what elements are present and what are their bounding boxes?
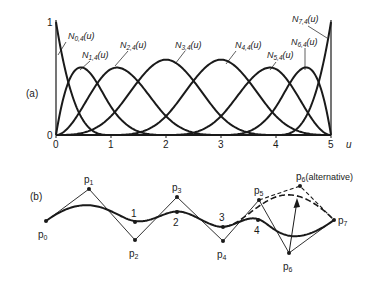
control-point-label-p4: p4	[217, 249, 227, 261]
basis-curve-N2	[56, 68, 331, 135]
control-point-label-p2: p2	[129, 248, 139, 260]
control-point-p5	[257, 198, 261, 202]
control-point-label-p5: p5	[254, 185, 264, 197]
basis-curve-N4	[56, 60, 331, 135]
control-point-p0	[44, 219, 48, 223]
knot-label-2: 2	[173, 217, 179, 228]
control-point-label-p0: p0	[38, 229, 48, 241]
panel-b-label: (b)	[30, 191, 42, 202]
bspline-figure: (a) 012345 0 1 u N0,4(u)N1,4(u)N2,4(u)N3…	[0, 0, 374, 288]
arrow-head-icon	[294, 198, 301, 208]
panel-a-label: (a)	[26, 88, 38, 99]
basis-label-7: N7,4(u)	[292, 14, 319, 25]
alternative-polygon	[225, 186, 334, 253]
knot-label-1: 1	[131, 208, 137, 219]
control-point-p7	[332, 218, 336, 222]
control-point-p4	[221, 239, 225, 243]
x-tick-label: 1	[108, 139, 114, 150]
control-point-label-p6: p6	[283, 261, 293, 273]
control-point-label-p1: p1	[84, 174, 94, 186]
basis-label-1: N1,4(u)	[82, 50, 109, 61]
control-point-label-p7: p7	[338, 215, 348, 227]
basis-curve-N5	[56, 68, 331, 135]
basis-curve-N3	[56, 60, 331, 135]
basis-label-6: N6,4(u)	[291, 37, 318, 48]
control-point-label-p6-alternative: p6(alternative)	[296, 171, 353, 183]
x-axis-label: u	[346, 139, 352, 150]
x-ticks: 012345	[53, 135, 334, 150]
basis-label-0: N0,4(u)	[68, 31, 95, 42]
y-tick-0: 0	[47, 130, 53, 141]
control-point-p6	[287, 251, 291, 255]
x-tick-label: 5	[328, 139, 334, 150]
basis-curve-N0	[56, 22, 331, 135]
leader-line	[175, 51, 185, 64]
basis-curve-N6	[56, 67, 331, 135]
leader-line	[115, 51, 128, 66]
basis-curve-N7	[56, 22, 331, 135]
basis-function-plot: (a) 012345 0 1 u N0,4(u)N1,4(u)N2,4(u)N3…	[26, 14, 352, 150]
control-point-p1	[87, 187, 91, 191]
basis-label-2: N2,4(u)	[120, 40, 147, 51]
knot-label-4: 4	[254, 225, 260, 236]
knot-label-3: 3	[219, 212, 225, 223]
x-tick-label: 3	[218, 139, 224, 150]
basis-label-5: N5,4(u)	[267, 50, 294, 61]
control-point-p2	[133, 238, 137, 242]
x-tick-label: 4	[273, 139, 279, 150]
control-point-p3	[175, 195, 179, 199]
knot-point-1	[133, 220, 137, 224]
control-polygon-diagram: (b) p0p1p2p3p4p5p6p7p6(alternative)1234	[30, 171, 353, 273]
control-point-p6-alternative	[298, 184, 302, 188]
y-tick-1: 1	[47, 17, 53, 28]
control-point-label-p3: p3	[172, 182, 182, 194]
basis-curve-N1	[56, 67, 331, 135]
control-points: p0p1p2p3p4p5p6p7p6(alternative)1234	[38, 171, 353, 273]
x-tick-label: 0	[53, 139, 59, 150]
basis-label-3: N3,4(u)	[175, 40, 202, 51]
knot-point-4	[256, 218, 260, 222]
basis-labels: N0,4(u)N1,4(u)N2,4(u)N3,4(u)N4,4(u)N5,4(…	[58, 14, 327, 70]
basis-curves	[56, 22, 331, 135]
basis-label-4: N4,4(u)	[235, 40, 262, 51]
knot-point-2	[175, 210, 179, 214]
x-tick-label: 2	[163, 139, 169, 150]
knot-point-3	[221, 225, 225, 229]
move-arrow-shaft	[289, 201, 297, 253]
